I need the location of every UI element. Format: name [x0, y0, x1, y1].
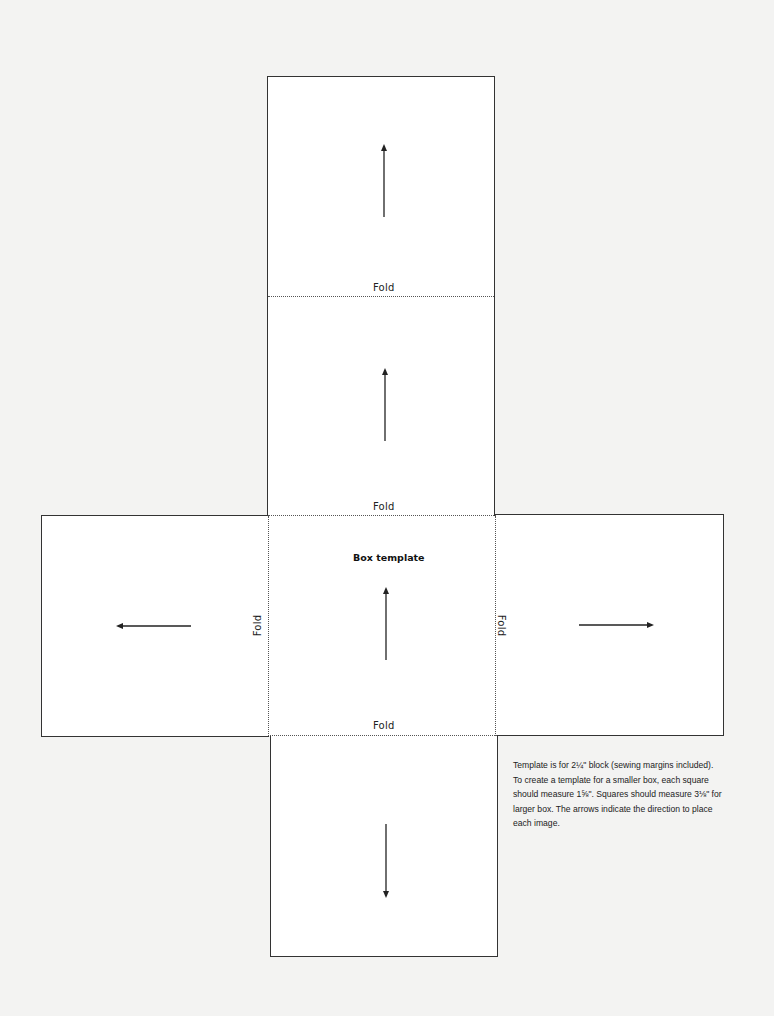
arrow-right-icon [579, 620, 655, 630]
template-note: Template is for 2¼" block (sewing margin… [513, 758, 723, 831]
fold-line-top [268, 296, 494, 297]
fold-line-upper [268, 515, 496, 516]
arrow-down-icon [381, 824, 391, 898]
arrow-left-icon [116, 621, 192, 631]
fold-label-right: Fold [496, 615, 507, 636]
arrow-up-icon [379, 144, 389, 218]
fold-line-left [268, 516, 269, 736]
fold-line-bottom [268, 735, 497, 736]
fold-label-bottom: Fold [373, 720, 394, 731]
arrow-up-icon [381, 587, 391, 661]
arrow-up-icon [380, 368, 390, 442]
fold-label-left: Fold [252, 615, 263, 636]
fold-label-upper: Fold [373, 501, 394, 512]
template-title: Box template [353, 552, 425, 563]
fold-label-top: Fold [373, 282, 394, 293]
